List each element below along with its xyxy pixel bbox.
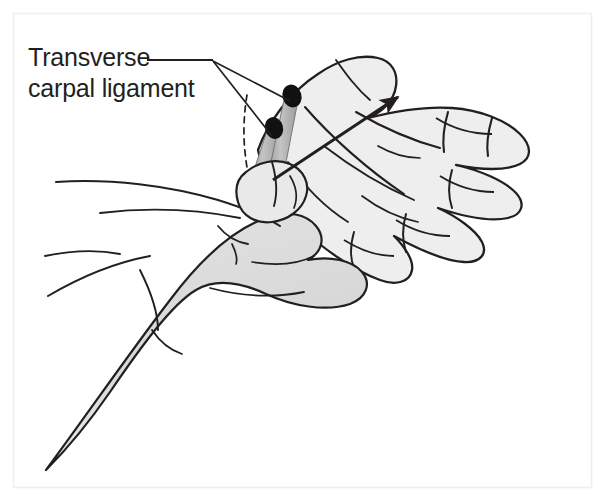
examiner-arm-lower-edge-2 [48, 256, 150, 296]
label-line-1: Transverse [28, 43, 150, 71]
leader-line-to-ulnar-tendon [213, 61, 272, 136]
examiner-arm-lower-edge [45, 251, 120, 256]
illustration-canvas: Transverse carpal ligament [0, 0, 605, 502]
examiner-forearm [46, 214, 367, 470]
leader-line-to-radial-tendon [213, 61, 290, 101]
figure-container: Transverse carpal ligament [0, 0, 605, 502]
ligament-outline-dashed [244, 95, 248, 172]
examiner-hand-lower-crease [152, 330, 182, 354]
examiner-arm-second-edge [100, 210, 240, 218]
label-line-2: carpal ligament [28, 74, 195, 102]
